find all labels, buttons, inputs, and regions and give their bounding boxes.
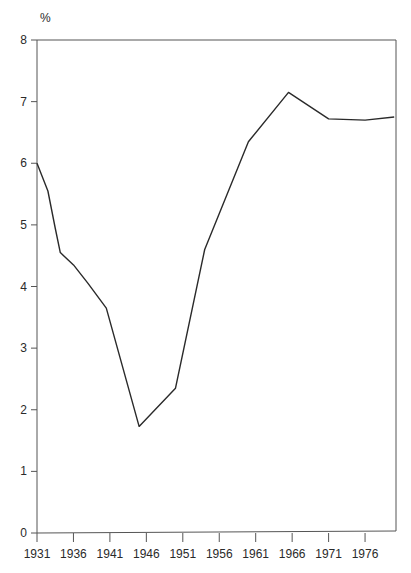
x-tick-label: 1976 [352, 547, 379, 561]
y-axis-unit-label: % [40, 11, 51, 25]
x-tick-label: 1941 [97, 547, 124, 561]
x-axis-line [37, 531, 396, 533]
y-tick-label: 2 [20, 403, 27, 417]
x-tick-label: 1946 [133, 547, 160, 561]
y-tick-label: 1 [20, 464, 27, 478]
line-chart: % 012345678 1931193619411946195119561961… [0, 0, 411, 573]
x-tick-label: 1966 [279, 547, 306, 561]
y-tick-label: 5 [20, 218, 27, 232]
x-tick-label: 1931 [24, 547, 51, 561]
y-tick-label: 0 [20, 526, 27, 540]
y-axis: 012345678 [20, 33, 37, 540]
x-tick-label: 1951 [169, 547, 196, 561]
x-tick-label: 1936 [60, 547, 87, 561]
y-tick-label: 6 [20, 156, 27, 170]
x-tick-label: 1971 [315, 547, 342, 561]
x-tick-label: 1961 [242, 547, 269, 561]
y-tick-label: 3 [20, 341, 27, 355]
y-tick-label: 4 [20, 280, 27, 294]
data-line [37, 92, 394, 426]
y-tick-label: 8 [20, 33, 27, 47]
y-tick-label: 7 [20, 95, 27, 109]
x-tick-label: 1956 [206, 547, 233, 561]
x-axis: 1931193619411946195119561961196619711976 [24, 533, 379, 561]
